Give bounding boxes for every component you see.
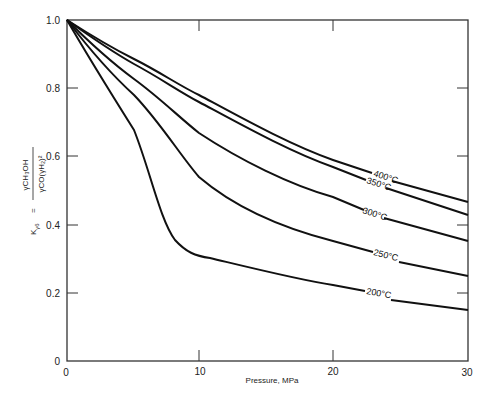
x-tick-30: 30: [461, 367, 473, 378]
chart: 1.0 0.8 0.6 0.4 0.2 0 0 10 20 30 Pressur…: [0, 0, 488, 399]
x-tick-20: 20: [327, 366, 339, 377]
y-axis-equals: =: [29, 208, 38, 213]
y-axis-title: Kγ6 = γCH₃OH γCO(γH₂)²: [21, 147, 46, 235]
y-tick-0.8: 0.8: [46, 83, 60, 94]
curve-250: [67, 20, 468, 276]
y-axis-lhs: Kγ6: [29, 223, 40, 235]
y-tick-1.0: 1.0: [46, 15, 60, 26]
y-tick-0: 0: [54, 356, 60, 367]
x-tick-0: 0: [63, 367, 69, 378]
y-tick-0.4: 0.4: [46, 220, 60, 231]
curve-label-300: 300°C: [361, 205, 388, 222]
curve-label-250: 250°C: [373, 247, 400, 263]
y-axis-denominator: γCO(γH₂)²: [37, 155, 46, 192]
curve-200: [67, 20, 468, 310]
curve-label-200: 200°C: [366, 286, 393, 300]
curve-400: [67, 20, 468, 202]
plot-frame: [67, 20, 468, 361]
y-axis-numerator: γCH₃OH: [21, 159, 30, 190]
y-tick-0.2: 0.2: [46, 288, 60, 299]
x-tick-10: 10: [194, 366, 206, 377]
y-tick-0.6: 0.6: [46, 151, 60, 162]
x-axis-title: Pressure, MPa: [246, 376, 299, 385]
curves: [67, 20, 468, 310]
